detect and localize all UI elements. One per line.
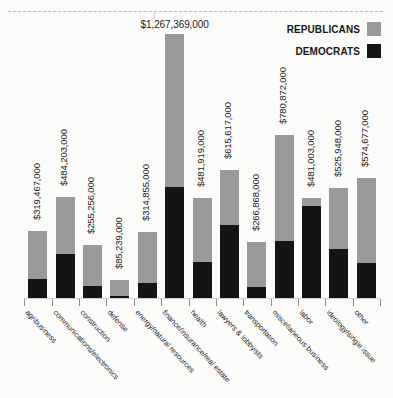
bar-lawyers-lobbyists: $615,617,000: [220, 34, 239, 298]
bar-stack: [165, 34, 184, 298]
chart-page: REPUBLICANS DEMOCRATS $319,467,000$484,2…: [0, 0, 393, 398]
bar-segment-republicans: [110, 280, 129, 296]
bar-value-label: $85,239,000: [113, 218, 124, 270]
bar-stack: [110, 280, 129, 298]
bar-labor: $481,003,000: [302, 34, 321, 298]
bar-ideology-single-issue: $525,948,000: [329, 34, 348, 298]
bar-value-label: $484,203,000: [58, 129, 69, 186]
axis-tick: [271, 299, 272, 306]
bar-stack: [56, 197, 75, 298]
bar-stack: [302, 198, 321, 298]
bar-segment-republicans: [56, 197, 75, 253]
axis-tick: [353, 299, 354, 306]
bar-segment-democrats: [165, 187, 184, 298]
bar-value-label: $319,467,000: [31, 164, 42, 221]
bar-segment-republicans: [247, 242, 266, 287]
bar-segment-democrats: [302, 206, 321, 298]
bar-stack: [275, 135, 294, 298]
axis-tick: [106, 299, 107, 306]
bar-segment-republicans: [357, 178, 376, 263]
bar-segment-democrats: [329, 249, 348, 298]
axis-tick: [325, 299, 326, 306]
bar-defense: $85,239,000: [110, 34, 129, 298]
axis-tick: [216, 299, 217, 306]
bar-communications-electronics: $484,203,000: [56, 34, 75, 298]
bar-value-label: $780,872,000: [277, 67, 288, 124]
bar-segment-democrats: [247, 287, 266, 298]
legend-label-republicans: REPUBLICANS: [287, 24, 360, 35]
bar-segment-republicans: [275, 135, 294, 241]
top-dashed-rule: [8, 11, 383, 12]
axis-tick: [161, 299, 162, 306]
bar-value-label: $255,256,000: [85, 177, 96, 234]
bar-segment-democrats: [28, 279, 47, 298]
bar-construction: $255,256,000: [83, 34, 102, 298]
bar-agribusiness: $319,467,000: [28, 34, 47, 298]
bar-segment-democrats: [193, 262, 212, 298]
x-axis-labels: agribusinesscommunications/electronicsco…: [24, 299, 380, 394]
bar-other: $574,677,000: [357, 34, 376, 298]
axis-tick: [189, 299, 190, 306]
bar-segment-republicans: [193, 198, 212, 262]
bar-value-label: $615,617,000: [222, 102, 233, 159]
bar-segment-democrats: [83, 286, 102, 298]
bar-finance-insurance-real-estate: $1,267,369,000: [165, 34, 184, 298]
bar-value-label: $1,267,369,000: [127, 19, 223, 30]
bar-segment-republicans: [138, 232, 157, 283]
bar-miscellaneous-business: $780,872,000: [275, 34, 294, 298]
bar-segment-democrats: [275, 241, 294, 298]
bar-segment-republicans: [83, 245, 102, 286]
bar-stack: [329, 188, 348, 298]
x-axis-label: labor: [297, 308, 315, 326]
bar-stack: [247, 242, 266, 298]
bar-value-label: $574,677,000: [359, 110, 370, 167]
bar-segment-republicans: [302, 198, 321, 207]
bar-segment-republicans: [220, 170, 239, 225]
bar-value-label: $314,855,000: [140, 165, 151, 222]
bar-health: $481,919,000: [193, 34, 212, 298]
axis-tick: [52, 299, 53, 306]
bar-stack: [357, 178, 376, 298]
bar-stack: [220, 170, 239, 298]
axis-tick: [134, 299, 135, 306]
x-axis-label: lawyers & lobbyists: [215, 308, 265, 361]
x-axis-label: ideology/single issue: [325, 308, 379, 365]
axis-tick: [298, 299, 299, 306]
bar-group: $319,467,000$484,203,000$255,256,000$85,…: [24, 34, 380, 298]
bar-stack: [28, 231, 47, 298]
bar-segment-democrats: [56, 254, 75, 298]
bar-segment-republicans: [165, 34, 184, 187]
bar-segment-republicans: [329, 188, 348, 249]
bar-stack: [138, 232, 157, 298]
bar-segment-democrats: [220, 225, 239, 298]
axis-tick: [380, 299, 381, 306]
plot-area: $319,467,000$484,203,000$255,256,000$85,…: [24, 34, 380, 299]
x-axis-label: other: [352, 308, 370, 327]
axis-tick: [24, 299, 25, 306]
bar-transportation: $266,868,000: [247, 34, 266, 298]
bar-segment-democrats: [138, 283, 157, 298]
x-axis-label: health: [188, 308, 208, 329]
bar-value-label: $525,948,000: [332, 121, 343, 178]
x-axis-label: defense: [106, 308, 131, 334]
axis-tick: [243, 299, 244, 306]
bar-energy-natural-resources: $314,855,000: [138, 34, 157, 298]
bar-segment-democrats: [357, 263, 376, 298]
bar-stack: [83, 245, 102, 298]
bar-value-label: $481,003,000: [305, 130, 316, 187]
bar-value-label: $481,919,000: [195, 130, 206, 187]
axis-tick: [79, 299, 80, 306]
bar-segment-republicans: [28, 231, 47, 278]
bar-value-label: $266,868,000: [250, 175, 261, 232]
bar-stack: [193, 198, 212, 298]
